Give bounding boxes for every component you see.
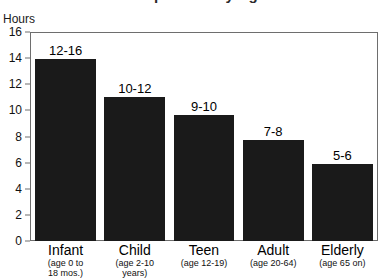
y-tick-mark <box>25 162 30 163</box>
x-axis-labels: Infant (age 0 to 18 mos.) Child (age 2-1… <box>31 243 377 279</box>
bar[interactable] <box>243 140 304 241</box>
y-tick-label: 4 <box>15 183 22 195</box>
y-tick-label: 14 <box>9 52 22 64</box>
x-category-name: Elderly <box>308 243 377 258</box>
bar-value-label: 5-6 <box>308 149 377 163</box>
y-tick-mark <box>25 58 30 59</box>
bar-slot: 5-6 <box>308 33 377 241</box>
x-category-sublabel-line: 18 mos.) <box>31 268 100 278</box>
x-category-sublabel-line: (age 65 on) <box>308 258 377 268</box>
x-category-sublabel: (age 2-10 years) <box>100 258 169 278</box>
x-category-infant: Infant (age 0 to 18 mos.) <box>31 243 100 278</box>
y-tick-mark <box>25 214 30 215</box>
y-tick-label: 16 <box>9 26 22 38</box>
x-category-sublabel: (age 12-19) <box>169 258 238 268</box>
x-category-adult: Adult (age 20-64) <box>239 243 308 268</box>
x-category-sublabel-line: (age 2-10 <box>100 258 169 268</box>
bar-slot: 9-10 <box>169 33 238 241</box>
x-category-sublabel-line: (age 20-64) <box>239 258 308 268</box>
bar-slot: 12-16 <box>31 33 100 241</box>
bars-area: 12-16 10-12 9-10 7-8 5-6 <box>31 33 377 241</box>
y-tick-mark <box>25 110 30 111</box>
y-tick-mark <box>25 241 30 242</box>
bar-value-label: 10-12 <box>100 82 169 96</box>
x-category-elderly: Elderly (age 65 on) <box>308 243 377 268</box>
bar-value-label: 12-16 <box>31 44 100 58</box>
x-category-sublabel: (age 0 to 18 mos.) <box>31 258 100 278</box>
bar[interactable] <box>312 164 373 241</box>
x-category-name: Teen <box>169 243 238 258</box>
x-category-sublabel: (age 20-64) <box>239 258 308 268</box>
y-tick-mark <box>25 32 30 33</box>
y-tick-label: 8 <box>15 131 22 143</box>
bar-slot: 10-12 <box>100 33 169 241</box>
y-tick-mark <box>25 188 30 189</box>
bar-value-label: 7-8 <box>239 125 308 139</box>
x-category-sublabel: (age 65 on) <box>308 258 377 268</box>
x-category-name: Adult <box>239 243 308 258</box>
y-tick-mark <box>25 84 30 85</box>
x-category-sublabel-line: (age 0 to <box>31 258 100 268</box>
x-category-teen: Teen (age 12-19) <box>169 243 238 268</box>
x-category-child: Child (age 2-10 years) <box>100 243 169 278</box>
x-category-sublabel-line: (age 12-19) <box>169 258 238 268</box>
x-category-sublabel-line: years) <box>100 268 169 278</box>
y-tick-label: 6 <box>15 157 22 169</box>
bar[interactable] <box>174 115 235 241</box>
x-category-name: Infant <box>31 243 100 258</box>
x-category-name: Child <box>100 243 169 258</box>
bar[interactable] <box>104 97 165 241</box>
chart-canvas: Sleep Needs by Age Hours 16 14 12 10 8 6… <box>0 0 389 279</box>
y-tick-label: 12 <box>9 78 22 90</box>
bar-value-label: 9-10 <box>169 100 238 114</box>
y-tick-mark <box>25 136 30 137</box>
y-axis-title: Hours <box>3 12 35 26</box>
chart-title: Sleep Needs by Age <box>0 0 389 3</box>
y-tick-label: 0 <box>15 235 22 247</box>
y-axis-ticks: 16 14 12 10 8 6 4 2 0 <box>0 32 30 241</box>
y-tick-label: 2 <box>15 209 22 221</box>
y-tick-label: 10 <box>9 104 22 116</box>
bar[interactable] <box>35 59 96 241</box>
bar-slot: 7-8 <box>239 33 308 241</box>
